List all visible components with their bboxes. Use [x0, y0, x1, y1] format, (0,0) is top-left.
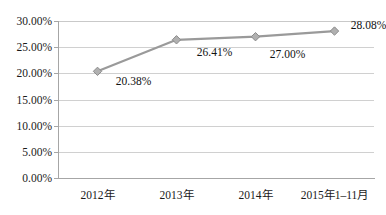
data-point-2[interactable] [249, 30, 262, 43]
gridline [58, 100, 374, 101]
x-axis-tick-label: 2012年 [81, 186, 115, 202]
data-point-3[interactable] [328, 25, 341, 38]
gridline [58, 73, 374, 74]
gridline [58, 126, 374, 127]
y-axis-tick-label: 25.00% [0, 41, 52, 53]
data-point-0[interactable] [91, 65, 104, 78]
y-axis-tick-label: 0.00% [0, 172, 52, 184]
y-axis-tick-label: 15.00% [0, 94, 52, 106]
data-point-label: 26.41% [197, 46, 232, 58]
y-axis-tick-label: 5.00% [0, 146, 52, 158]
x-axis-line [58, 178, 375, 179]
gridline [58, 21, 374, 22]
y-axis-line [58, 21, 59, 179]
x-axis-tick-label: 2013年 [160, 186, 194, 202]
data-point-label: 28.08% [351, 19, 386, 31]
y-axis-tick-label: 20.00% [0, 67, 52, 79]
data-point-label: 27.00% [270, 48, 305, 60]
x-axis-tick-label: 2015年1–11月 [301, 186, 369, 202]
gridline [58, 152, 374, 153]
x-axis-tick-label: 2014年 [239, 186, 273, 202]
y-axis-tick-label: 30.00% [0, 15, 52, 27]
data-point-1[interactable] [170, 33, 183, 46]
data-point-label: 20.38% [116, 75, 151, 87]
y-axis-tick-label: 10.00% [0, 120, 52, 132]
